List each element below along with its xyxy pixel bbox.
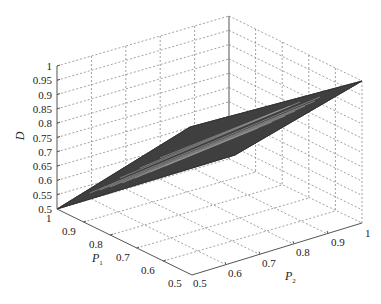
p1-tick: 0.8: [89, 238, 103, 250]
z-tick: 0.75: [33, 132, 53, 144]
z-tick: 0.85: [33, 103, 53, 115]
p2-tick: 1: [365, 227, 371, 239]
z-tick: 1: [47, 60, 53, 72]
p2-axis-label: P2: [284, 269, 296, 285]
p2-axis: 0.5 0.6 0.7 0.8 0.9 1 P2: [192, 223, 371, 289]
z-tick: 0.9: [38, 89, 52, 101]
p2-tick: 0.5: [193, 277, 207, 289]
p1-tick: 0.9: [62, 225, 76, 237]
surface: [57, 81, 362, 209]
surface-plot: 1 0.95 0.9 0.85 0.8 0.75 0.7 0.65 0.6 0.…: [0, 0, 381, 304]
z-tick: 0.65: [33, 160, 53, 172]
p1-tick: 1: [46, 212, 52, 224]
p2-tick: 0.7: [262, 257, 276, 269]
z-tick: 0.95: [33, 74, 53, 86]
z-axis: 1 0.95 0.9 0.85 0.8 0.75 0.7 0.65 0.6 0.…: [13, 60, 60, 215]
z-tick: 0.7: [38, 146, 52, 158]
z-tick: 0.6: [38, 174, 52, 186]
p2-tick: 0.9: [331, 236, 345, 248]
p2-tick: 0.8: [296, 246, 310, 258]
z-tick: 0.55: [33, 189, 53, 201]
p1-axis: 1 0.9 0.8 0.7 0.6 0.5 P1: [46, 209, 192, 289]
floor-grid: [57, 159, 362, 264]
p1-tick: 0.6: [141, 264, 155, 276]
p1-tick: 0.7: [116, 251, 130, 263]
p1-tick: 0.5: [168, 277, 182, 289]
p1-axis-label: P1: [91, 251, 103, 267]
p2-tick: 0.6: [228, 267, 242, 279]
z-tick: 0.8: [38, 117, 52, 129]
z-axis-label: D: [13, 131, 27, 141]
